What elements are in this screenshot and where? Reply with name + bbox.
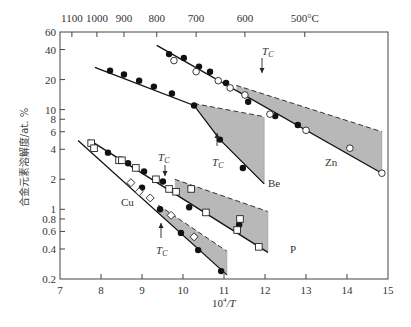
data-points [88, 51, 385, 274]
tc-cu-label: TC [156, 244, 168, 258]
top-tick-label: 1000 [86, 12, 109, 24]
filled-point-zn [245, 98, 251, 104]
filled-point-p [105, 149, 111, 155]
open-diamond-cu [146, 194, 154, 202]
open-square-p [119, 157, 126, 164]
series-label-be: Be [268, 177, 280, 189]
filled-point-zn [207, 68, 213, 74]
series-label-zn: Zn [325, 156, 337, 168]
filled-point-p [186, 204, 192, 210]
series-label-p: P [290, 243, 296, 255]
open-square-p [91, 145, 98, 152]
fit-line-zn [157, 45, 382, 173]
y-tick-label: 1 [51, 203, 57, 215]
x-tick-label: 14 [342, 284, 354, 296]
filled-point-p [141, 168, 147, 174]
filled-point-p [125, 160, 131, 166]
top-tick-label: 700 [188, 12, 205, 24]
open-point-zn [303, 127, 310, 134]
open-square-p [237, 216, 244, 223]
open-square-p [188, 186, 195, 193]
tc-p-label: TC [158, 151, 170, 165]
x-label-tail: /T [227, 297, 236, 309]
x-tick-label: 10 [178, 284, 190, 296]
filled-point-be [151, 83, 157, 89]
y-tick-label: 10 [45, 104, 57, 116]
open-square-p [153, 176, 160, 183]
open-point-zn [171, 57, 178, 64]
open-square-p [203, 209, 210, 216]
x-tick-label: 8 [98, 284, 104, 296]
tc-cu-arrow-icon [159, 223, 164, 228]
y-tick-label: 0.6 [42, 225, 56, 237]
open-point-zn [347, 145, 354, 152]
y-tick-label: 0.2 [42, 273, 56, 285]
filled-point-be [136, 77, 142, 83]
solubility-chart: 7891011121314150.20.40.60.81246810204060… [0, 0, 411, 327]
top-tick-label: 1100 [61, 12, 83, 24]
x-tick-label: 13 [301, 284, 313, 296]
filled-point-cu [178, 230, 184, 236]
y-tick-label: 0.4 [42, 243, 56, 255]
filled-point-zn [166, 51, 172, 57]
band-be [194, 104, 264, 184]
open-point-zn [242, 92, 249, 99]
filled-point-cu [218, 268, 224, 274]
x-tick-label: 12 [260, 284, 271, 296]
open-point-zn [193, 68, 200, 75]
open-point-zn [379, 170, 386, 177]
y-tick-label: 2 [51, 173, 57, 185]
open-square-p [166, 186, 173, 193]
open-square-p [173, 188, 180, 195]
open-point-zn [227, 85, 234, 92]
series-label-cu: Cu [121, 196, 134, 208]
top-tick-label: 900 [116, 12, 133, 24]
filled-point-zn [295, 122, 301, 128]
top-tick-label: 800 [149, 12, 166, 24]
filled-point-cu [195, 247, 201, 253]
tc-zn-arrow-icon [260, 68, 265, 73]
top-tick-label: 500°C [291, 12, 319, 24]
filled-point-p [160, 178, 166, 184]
tc-zn-label: TC [262, 45, 274, 59]
x-axis-label: 104/T [212, 296, 236, 309]
open-point-zn [215, 77, 222, 84]
filled-point-be [121, 71, 127, 77]
tc-p-arrow-icon [163, 171, 168, 176]
top-tick-label: 600 [237, 12, 254, 24]
x-label-base: 10 [212, 297, 223, 309]
y-tick-label: 40 [45, 44, 57, 56]
chart-figure: 7891011121314150.20.40.60.81246810204060… [0, 0, 411, 327]
filled-point-be [107, 68, 113, 74]
y-tick-label: 20 [45, 74, 57, 86]
filled-point-be [169, 90, 175, 96]
filled-point-be [240, 165, 246, 171]
filled-point-be [191, 102, 197, 108]
y-tick-label: 6 [51, 126, 57, 138]
open-square-p [133, 165, 140, 172]
y-tick-label: 60 [45, 26, 57, 38]
y-tick-label: 4 [51, 143, 57, 155]
filled-point-zn [181, 55, 187, 61]
x-tick-label: 15 [383, 284, 395, 296]
x-tick-label: 11 [219, 284, 230, 296]
x-tick-label: 7 [57, 284, 63, 296]
x-tick-label: 9 [139, 284, 145, 296]
y-axis-label: 合金元素溶解度/at. % [16, 93, 31, 223]
open-square-p [256, 244, 263, 251]
open-square-p [234, 227, 241, 234]
filled-point-cu [157, 206, 163, 212]
open-point-zn [267, 111, 274, 118]
tc-be-label: TC [212, 156, 224, 170]
